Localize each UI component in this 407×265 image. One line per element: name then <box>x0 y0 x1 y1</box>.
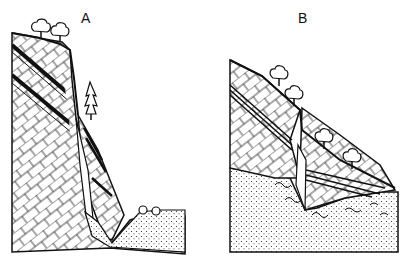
tree-icon <box>270 66 288 86</box>
tree-icon <box>32 19 51 37</box>
tree-icon <box>51 23 69 41</box>
diagram-canvas <box>0 0 407 265</box>
conifer-tree-icon <box>85 82 97 114</box>
boulder <box>139 206 147 214</box>
boulder <box>152 207 160 215</box>
panel-b-section <box>230 60 398 252</box>
panel-a-section <box>12 19 185 254</box>
